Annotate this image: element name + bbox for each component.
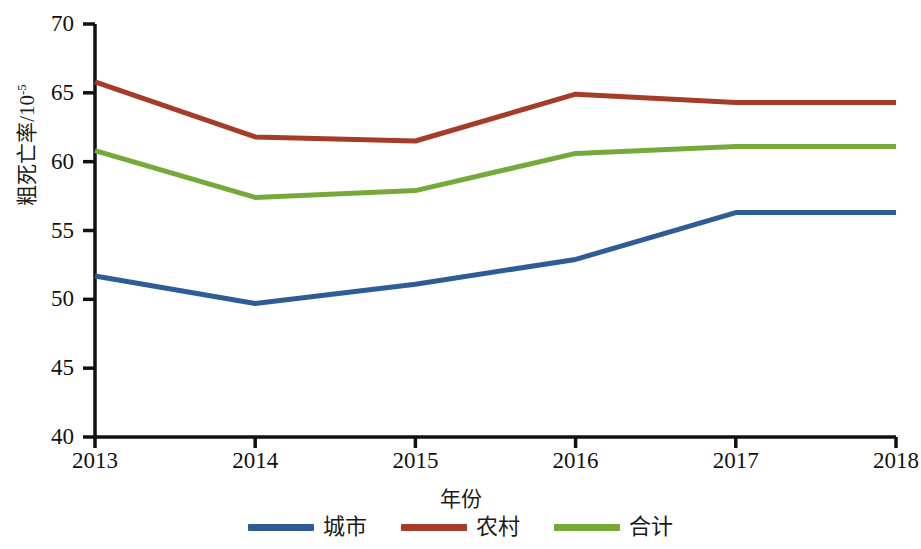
legend-label: 合计 — [629, 516, 673, 538]
legend-swatch-icon — [554, 524, 620, 531]
x-tick-label: 2013 — [40, 449, 150, 472]
chart-legend: 城市农村合计 — [0, 516, 921, 538]
legend-label: 城市 — [323, 516, 367, 538]
chart-container: 粗死亡率/10-5 70656055504540 201320142015201… — [0, 0, 921, 549]
x-tick-label: 2014 — [200, 449, 310, 472]
legend-item-合计[interactable]: 合计 — [554, 516, 673, 538]
series-lines — [95, 82, 896, 304]
x-tick-label: 2016 — [521, 449, 631, 472]
series-line-合计 — [95, 147, 896, 198]
axis-lines — [83, 24, 896, 448]
legend-label: 农村 — [476, 516, 520, 538]
series-line-城市 — [95, 213, 896, 304]
x-tick-label: 2017 — [681, 449, 791, 472]
x-tick-label: 2018 — [841, 449, 921, 472]
legend-swatch-icon — [248, 524, 314, 531]
legend-swatch-icon — [401, 524, 467, 531]
legend-item-农村[interactable]: 农村 — [401, 516, 520, 538]
legend-item-城市[interactable]: 城市 — [248, 516, 367, 538]
x-axis-title: 年份 — [0, 482, 921, 512]
x-tick-label: 2015 — [360, 449, 470, 472]
series-line-农村 — [95, 82, 896, 141]
x-axis-tick-labels: 201320142015201620172018 — [0, 449, 921, 483]
